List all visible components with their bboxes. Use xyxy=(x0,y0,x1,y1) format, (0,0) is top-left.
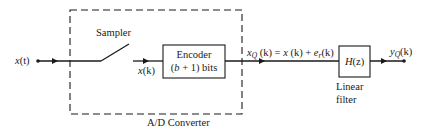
encoder-bits: + 1) bits xyxy=(180,62,218,73)
yq-var: y xyxy=(390,46,395,57)
filter-z: (z) xyxy=(352,56,364,67)
output-terminal xyxy=(402,59,406,63)
encoder-line2: (b + 1) bits xyxy=(163,61,225,74)
sampler-switch xyxy=(101,44,129,61)
output-arrow-icon xyxy=(381,58,387,64)
sampled-arg: (k) xyxy=(143,65,155,76)
xq-var: x xyxy=(247,47,252,58)
xq-sub: Q xyxy=(252,51,257,60)
sampled-arrow-icon xyxy=(143,58,149,64)
yq-arg: (k) xyxy=(400,46,412,57)
input-arg: (t) xyxy=(20,55,30,66)
encoder-line1: Encoder xyxy=(163,48,225,61)
output-signal-label: yQ(k) xyxy=(390,47,412,58)
input-signal-label: x(t) xyxy=(15,56,30,67)
filter-caption: Linear filter xyxy=(336,80,376,106)
xq-arg: (k) = xyxy=(257,47,283,58)
quantized-signal-label: xQ (k) = x (k) + er(k) xyxy=(247,48,334,59)
filter-caption-line2: filter xyxy=(336,93,376,106)
x-arg: (k) + xyxy=(288,47,314,58)
input-arrow-icon xyxy=(52,58,58,64)
filter-label: H(z) xyxy=(339,55,370,68)
sampled-signal-label: x(k) xyxy=(138,66,155,77)
filter-caption-line1: Linear xyxy=(336,80,376,93)
ad-converter-label: A/D Converter xyxy=(147,118,210,129)
e-arg: (k) xyxy=(321,47,333,58)
quantized-arrow-icon xyxy=(259,58,265,64)
encoder-label: Encoder (b + 1) bits xyxy=(163,48,225,74)
sampler-label: Sampler xyxy=(96,28,131,39)
e-var: e xyxy=(314,47,319,58)
yq-sub: Q xyxy=(395,50,400,59)
